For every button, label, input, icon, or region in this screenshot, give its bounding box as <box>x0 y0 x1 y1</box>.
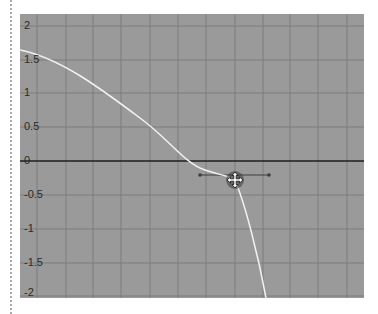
y-tick-label: -0.5 <box>24 189 43 200</box>
vertical-grid-lines <box>37 14 347 298</box>
panel-divider <box>10 0 12 314</box>
y-tick-label: -2 <box>24 287 34 298</box>
y-tick-label: 1 <box>24 87 30 98</box>
graph-editor-canvas[interactable]: 2 1.5 1 0.5 0 -0.5 -1 -1.5 -2 <box>20 14 364 298</box>
graph-grid <box>20 14 364 298</box>
y-tick-label: 0.5 <box>24 121 39 132</box>
y-tick-label: 2 <box>24 20 30 31</box>
tangent-handle-left[interactable] <box>198 173 202 177</box>
y-tick-label: 0 <box>24 155 30 166</box>
y-tick-label: -1 <box>24 223 34 234</box>
y-tick-label: -1.5 <box>24 257 43 268</box>
y-tick-label: 1.5 <box>24 54 39 65</box>
move-cursor-icon <box>226 171 244 189</box>
tangent-handle-right[interactable] <box>267 173 271 177</box>
